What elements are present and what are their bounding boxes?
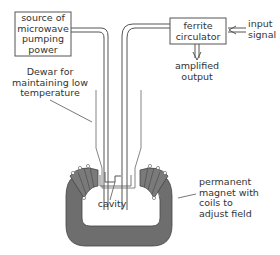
amplified-output-label: amplified output xyxy=(170,61,224,82)
label-line: signal xyxy=(248,30,276,41)
label-line: circulator xyxy=(170,32,226,43)
input-signal-label: input signal xyxy=(248,19,276,40)
cavity-shape xyxy=(105,172,121,182)
dewar-outline xyxy=(96,90,141,188)
label-line: temperature xyxy=(10,88,90,99)
label-line: ferrite xyxy=(170,21,226,32)
label-line: pumping xyxy=(15,34,71,45)
cavity-label: cavity xyxy=(92,199,132,210)
magnet-leader xyxy=(178,194,196,198)
dewar-label: Dewar for maintaining low temperature xyxy=(10,67,90,99)
label-line: power xyxy=(15,45,71,56)
label-line: amplified xyxy=(170,61,224,72)
circulator-label: ferrite circulator xyxy=(170,21,226,42)
dewar-leader xyxy=(50,100,92,122)
label-line: source of xyxy=(15,13,71,24)
label-line: input xyxy=(248,19,276,30)
label-line: Dewar for xyxy=(10,67,90,78)
label-line: coils to xyxy=(199,198,259,209)
pump-source-label: source of microwave pumping power xyxy=(15,13,71,55)
label-line: adjust field xyxy=(199,209,259,220)
magnet-label: permanent magnet with coils to adjust fi… xyxy=(199,177,259,219)
label-line: permanent xyxy=(199,177,259,188)
label-line: output xyxy=(170,72,224,83)
